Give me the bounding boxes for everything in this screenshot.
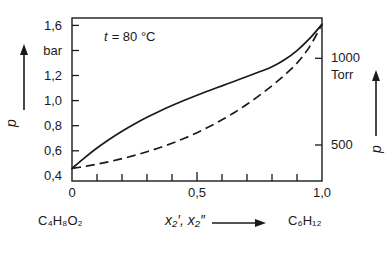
right-axis-ticks — [315, 58, 322, 145]
dew-point-curve — [72, 24, 322, 168]
rtick-label-unit-torr: Torr — [331, 68, 375, 81]
annot-symbol-t: t — [104, 29, 108, 44]
x-axis-arrow — [212, 219, 266, 227]
ytick-label-1-0: 1,0 — [22, 94, 62, 107]
rtick-label-1000: 1000 — [331, 51, 375, 64]
ytick-label-0-4: 0,4 — [22, 169, 62, 182]
xtick-label-1-0: 1,0 — [302, 186, 342, 199]
x-axis-ticks — [97, 172, 297, 181]
ytick-label-1-2: 1,2 — [22, 69, 62, 82]
component-label-left: C₄H₈O₂ — [38, 214, 83, 227]
component-label-right: C₆H₁₂ — [288, 214, 321, 227]
ytick-label-unit-bar: bar — [22, 44, 62, 57]
chart-figure: 1,6 bar 1,2 1,0 0,8 0,6 0,4 p 1000 Torr … — [0, 0, 391, 253]
left-axis-ticks — [72, 25, 79, 150]
left-axis-symbol-p: p — [4, 111, 18, 135]
ytick-label-0-8: 0,8 — [22, 119, 62, 132]
data-curves — [72, 24, 322, 168]
xtick-label-0: 0 — [52, 186, 92, 199]
ytick-label-1-6: 1,6 — [22, 19, 62, 32]
bubble-point-curve — [72, 24, 322, 168]
x-axis-label: x₂′, x₂″ — [165, 213, 205, 227]
ytick-label-0-6: 0,6 — [22, 144, 62, 157]
xtick-label-0-5: 0,5 — [177, 186, 217, 199]
right-axis-symbol-p: p — [369, 137, 383, 161]
temperature-annotation: t= 80 °C — [104, 30, 156, 43]
x-arrow-head — [255, 219, 266, 227]
annot-value: = 80 °C — [112, 29, 156, 44]
